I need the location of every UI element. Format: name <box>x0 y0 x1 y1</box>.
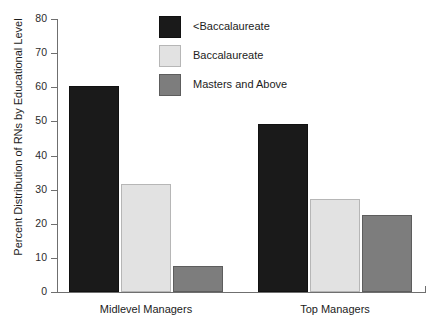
x-axis-category-label: Midlevel Managers <box>100 303 192 315</box>
x-axis-line <box>57 292 426 293</box>
bar <box>69 86 119 292</box>
y-axis-tick-label: 80 <box>35 12 47 25</box>
y-axis-tick-label: 20 <box>35 217 47 230</box>
y-axis-tick-label: 40 <box>35 149 47 162</box>
legend-label: Masters and Above <box>193 78 287 90</box>
legend-swatch-icon <box>159 74 181 96</box>
y-axis-tick-label: 10 <box>35 251 47 264</box>
legend-swatch-icon <box>159 16 181 38</box>
bar <box>173 266 223 292</box>
y-axis-title: Percent Distribution of RNs by Education… <box>12 0 24 282</box>
y-axis-tick-label: 60 <box>35 80 47 93</box>
bar <box>362 215 412 292</box>
bar <box>121 184 171 292</box>
bar <box>310 199 360 292</box>
legend-label: Baccalaureate <box>193 49 263 61</box>
y-axis-tick: 0 <box>51 292 57 293</box>
x-axis-category-label: Top Managers <box>300 303 370 315</box>
bar <box>258 124 308 292</box>
y-axis-tick-mark <box>51 292 57 293</box>
y-axis-tick-label: 30 <box>35 183 47 196</box>
y-axis-tick-label: 0 <box>41 285 47 298</box>
legend-swatch-icon <box>159 45 181 67</box>
y-axis-tick-label: 50 <box>35 114 47 127</box>
bar-chart: Percent Distribution of RNs by Education… <box>0 0 446 332</box>
legend-label: <Baccalaureate <box>193 20 270 32</box>
y-axis-tick-label: 70 <box>35 46 47 59</box>
